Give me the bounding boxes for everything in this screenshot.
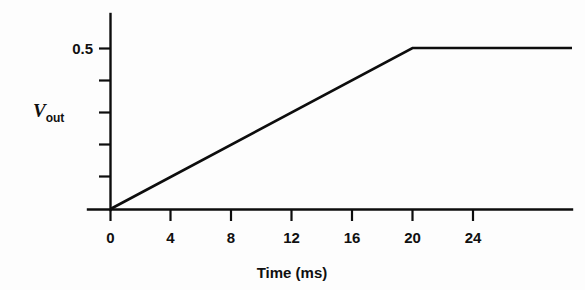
y-axis-title: Vout	[33, 100, 64, 125]
x-tick-label-4: 4	[166, 229, 175, 246]
x-tick-label-16: 16	[344, 229, 361, 246]
x-tick-label-20: 20	[404, 229, 421, 246]
x-tick-label-0: 0	[106, 229, 114, 246]
x-tick-label-12: 12	[283, 229, 300, 246]
x-axis-title: Time (ms)	[257, 264, 328, 281]
y-axis-title-subscript: out	[46, 111, 65, 125]
waveform-figure: 0.5 Vout 0 4 8 12 16 20 24 Time (ms)	[0, 0, 585, 290]
y-tick-label-0.5: 0.5	[72, 40, 93, 57]
x-tick-label-24: 24	[465, 229, 482, 246]
vout-waveform	[111, 48, 573, 209]
plot-area: 0.5 Vout 0 4 8 12 16 20 24 Time (ms)	[0, 0, 585, 290]
x-tick-label-8: 8	[227, 229, 235, 246]
